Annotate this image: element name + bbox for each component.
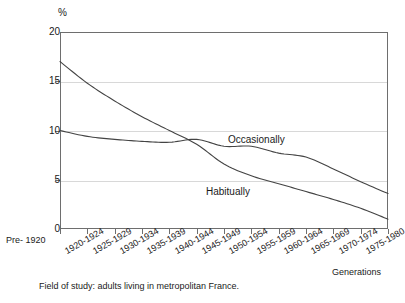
y-tick-label: 15 (14, 76, 60, 86)
y-tick-label: 20 (14, 27, 60, 37)
series-label-habitually: Habitually (206, 186, 250, 197)
series-label-occasionally: Occasionally (228, 134, 285, 145)
series-lines (60, 32, 388, 229)
chart-figure: % 05101520 Pre- 19201920-19241925-192919… (0, 0, 405, 303)
y-tick-label: 10 (14, 126, 60, 136)
y-axis-ticks: 05101520 (0, 32, 60, 229)
figure-caption: Field of study: adults living in metropo… (39, 281, 239, 292)
y-axis-unit-label: % (58, 7, 67, 18)
y-tick-label: 5 (14, 175, 60, 185)
x-axis-title: Generations (332, 267, 381, 277)
line-occasionally (60, 131, 388, 194)
x-tick-label: Pre- 1920 (6, 235, 46, 245)
